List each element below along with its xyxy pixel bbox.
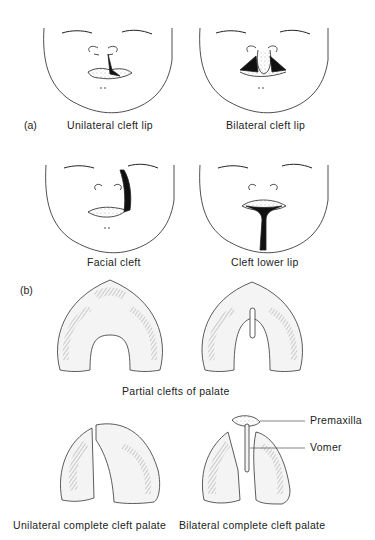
label-unilateral-cleft-lip: Unilateral cleft lip	[67, 119, 153, 131]
cleft-diagram-drawing	[0, 0, 375, 540]
palate-unilateral-complete	[60, 424, 159, 504]
label-cleft-lower-lip: Cleft lower lip	[231, 256, 299, 268]
face-bilateral-cleft-lip	[200, 28, 328, 113]
label-bilateral-cleft-lip: Bilateral cleft lip	[226, 119, 305, 131]
panel-a-tag: (a)	[24, 119, 37, 131]
label-partial-clefts-of-palate: Partial clefts of palate	[122, 385, 230, 397]
face-unilateral-cleft-lip	[44, 28, 172, 113]
label-vomer: Vomer	[310, 441, 342, 453]
face-facial-cleft	[46, 164, 174, 253]
palate-partial-1	[58, 280, 163, 372]
face-cleft-lower-lip	[200, 164, 328, 253]
panel-b-tag: (b)	[20, 284, 33, 296]
palate-bilateral-complete	[202, 416, 305, 504]
label-unilateral-complete-cleft-palate: Unilateral complete cleft palate	[13, 519, 166, 531]
palate-partial-2	[202, 282, 302, 372]
label-facial-cleft: Facial cleft	[87, 256, 141, 268]
label-premaxilla: Premaxilla	[310, 414, 362, 426]
label-bilateral-complete-cleft-palate: Bilateral complete cleft palate	[179, 519, 325, 531]
